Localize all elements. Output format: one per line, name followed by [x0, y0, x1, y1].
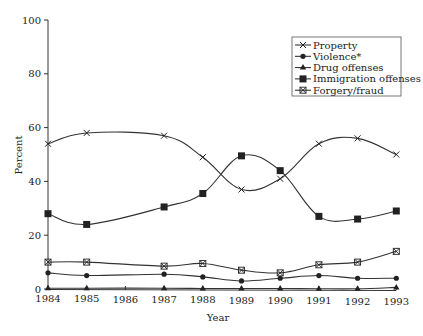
y-axis: 020406080100	[22, 15, 48, 295]
series-line	[48, 273, 396, 281]
data-point-triangle-icon	[393, 284, 399, 290]
x-tick-label: 1989	[229, 295, 254, 306]
data-point-triangle-icon	[277, 285, 283, 291]
series-forgery-fraud	[45, 248, 399, 276]
x-tick-label: 1986	[113, 294, 138, 305]
y-axis-title: Percent	[13, 136, 24, 175]
data-point-square-icon	[277, 167, 284, 174]
data-point-square-icon	[354, 216, 361, 223]
line-chart: 020406080100 198419851986198719881989199…	[0, 0, 423, 336]
data-point-square-icon	[315, 213, 322, 220]
data-point-x-icon	[200, 154, 206, 160]
legend-label: Property	[313, 40, 358, 51]
data-point-triangle-icon	[354, 285, 360, 291]
data-point-circle-icon	[162, 272, 167, 277]
series-violence	[45, 270, 399, 283]
y-tick-label: 20	[28, 230, 41, 241]
data-point-triangle-icon	[200, 285, 206, 291]
x-tick-label: 1988	[190, 294, 215, 305]
x-tick-label: 1991	[306, 295, 331, 306]
legend-label: Drug offenses	[313, 62, 383, 73]
x-axis-line	[48, 290, 396, 291]
data-point-circle-icon	[239, 278, 244, 283]
y-tick-label: 40	[28, 176, 41, 187]
data-point-square-icon	[161, 203, 168, 210]
y-tick-label: 80	[28, 68, 41, 79]
x-axis-title: Year	[206, 312, 230, 323]
data-point-circle-icon	[278, 276, 283, 281]
series-line	[48, 287, 396, 288]
x-tick-label: 1990	[267, 295, 292, 306]
data-point-square-icon	[393, 207, 400, 214]
y-tick-label: 100	[22, 15, 41, 26]
data-point-square-icon	[83, 221, 90, 228]
data-point-square-icon	[238, 152, 245, 159]
data-point-x-icon	[277, 176, 283, 182]
y-tick-label: 60	[28, 122, 41, 133]
legend: PropertyViolence*Drug offensesImmigratio…	[292, 37, 421, 96]
legend-label: Violence*	[312, 51, 361, 62]
series-line	[48, 132, 396, 191]
legend-item: Immigration offenses	[295, 73, 421, 84]
series-line	[48, 155, 396, 225]
series-line	[48, 251, 396, 273]
data-point-circle-icon	[200, 274, 205, 279]
data-point-circle-icon	[84, 273, 89, 278]
data-point-asterisk-box-icon	[393, 248, 399, 254]
data-point-triangle-icon	[45, 285, 51, 291]
legend-label: Forgery/fraud	[313, 85, 384, 96]
data-point-x-icon	[393, 152, 399, 158]
data-point-circle-icon	[394, 276, 399, 281]
x-tick-label: 1984	[35, 293, 60, 304]
data-point-x-icon	[316, 141, 322, 147]
data-point-circle-icon	[300, 54, 305, 59]
x-tick-label: 1987	[151, 294, 176, 305]
x-tick-label: 1992	[345, 296, 370, 307]
data-point-circle-icon	[45, 270, 50, 275]
data-point-square-icon	[300, 75, 307, 82]
data-point-circle-icon	[316, 273, 321, 278]
series-layer	[45, 130, 400, 291]
x-tick-label: 1993	[384, 296, 409, 307]
series-property	[45, 130, 399, 192]
data-point-circle-icon	[355, 276, 360, 281]
legend-label: Immigration offenses	[313, 73, 421, 84]
data-point-square-icon	[199, 190, 206, 197]
data-point-triangle-icon	[84, 285, 90, 291]
data-point-square-icon	[45, 210, 52, 217]
x-tick-label: 1985	[74, 293, 99, 304]
series-immigration-offenses	[45, 152, 400, 228]
data-point-triangle-icon	[238, 285, 244, 291]
data-point-triangle-icon	[316, 285, 322, 291]
data-point-triangle-icon	[161, 285, 167, 291]
